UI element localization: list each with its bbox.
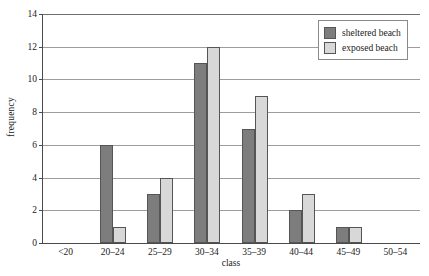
- x-axis-tick-label: 50–54: [372, 247, 419, 257]
- x-axis-tick-label: 40–44: [278, 247, 325, 257]
- bar: [194, 63, 207, 243]
- y-axis-tick-label: 10: [28, 74, 38, 84]
- y-axis-tick-label: 2: [32, 205, 37, 215]
- x-axis-title: class: [42, 258, 420, 268]
- bar-group: [232, 14, 279, 243]
- x-axis-tick-label: 25–29: [136, 247, 183, 257]
- bar-chart: frequency 02468101214 <2020–2425–2930–34…: [0, 0, 429, 276]
- legend-item: sheltered beach: [324, 25, 401, 40]
- y-axis-tick-label: 8: [32, 107, 37, 117]
- x-axis-tick-label: <20: [42, 247, 89, 257]
- bar: [160, 178, 173, 243]
- bar: [207, 47, 220, 243]
- y-axis-tick-label: 6: [32, 140, 37, 150]
- y-axis-tick-label: 14: [28, 9, 38, 19]
- bar: [255, 96, 268, 243]
- legend-swatch-icon: [324, 27, 336, 39]
- bar: [147, 194, 160, 243]
- legend: sheltered beachexposed beach: [318, 20, 408, 60]
- bar-group: [90, 14, 137, 243]
- bar: [336, 227, 349, 243]
- bar: [113, 227, 126, 243]
- bar: [349, 227, 362, 243]
- bar: [242, 129, 255, 244]
- legend-item-label: exposed beach: [342, 43, 398, 53]
- bar-group: [184, 14, 231, 243]
- y-axis-tick-label: 4: [32, 173, 37, 183]
- bar: [302, 194, 315, 243]
- x-axis-tick-label: 45–49: [325, 247, 372, 257]
- y-axis-tick-label: 0: [32, 238, 37, 248]
- y-axis-title: frequency: [6, 77, 16, 157]
- x-axis-tick-label: 30–34: [183, 247, 230, 257]
- bar-group: [137, 14, 184, 243]
- bar: [289, 210, 302, 243]
- y-axis-tick-mark: [39, 243, 43, 244]
- legend-item-label: sheltered beach: [342, 28, 401, 38]
- bar: [100, 145, 113, 243]
- y-axis-tick-label: 12: [28, 42, 38, 52]
- legend-swatch-icon: [324, 42, 336, 54]
- bar-group: [43, 14, 90, 243]
- legend-item: exposed beach: [324, 40, 401, 55]
- x-axis-tick-label: 20–24: [89, 247, 136, 257]
- x-axis-tick-label: 35–39: [231, 247, 278, 257]
